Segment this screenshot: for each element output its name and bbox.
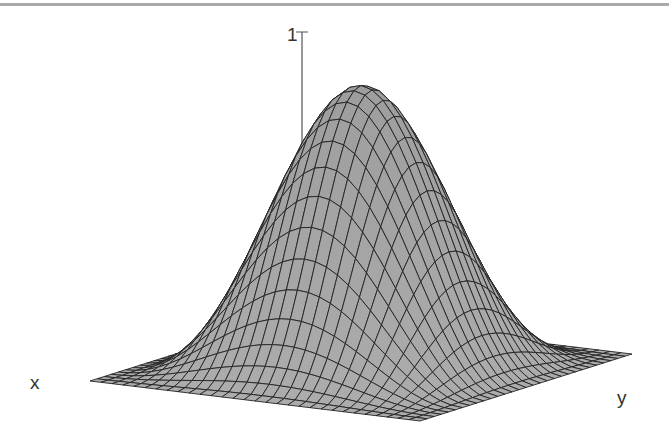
z-tick-label: 1 bbox=[287, 24, 298, 46]
x-axis-label: x bbox=[30, 372, 40, 394]
surface-mesh bbox=[90, 86, 632, 422]
y-axis-label: y bbox=[617, 387, 627, 409]
surface-plot bbox=[0, 0, 669, 436]
